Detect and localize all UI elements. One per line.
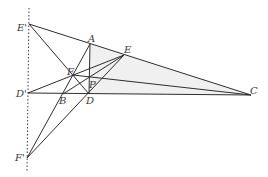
label-B: B [58, 95, 66, 106]
geometry-diagram: A E F P B D C D' E' F' [0, 0, 268, 177]
label-P: P [88, 79, 96, 90]
label-D: D [85, 95, 94, 106]
label-F: F [66, 66, 75, 77]
label-Fp: F' [14, 152, 25, 163]
label-Dp: D' [15, 88, 27, 99]
label-Ep: E' [16, 22, 27, 33]
label-C: C [250, 85, 258, 96]
label-E: E [123, 44, 132, 55]
dotted-line [27, 8, 29, 172]
label-A: A [87, 33, 95, 44]
